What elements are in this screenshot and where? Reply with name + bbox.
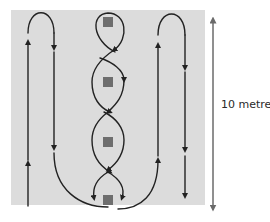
obstacle-4 <box>103 195 113 205</box>
obstacle-2 <box>103 77 113 87</box>
obstacle-3 <box>103 137 113 147</box>
obstacle-1 <box>103 17 113 27</box>
scale-label: 10 metres <box>221 98 270 111</box>
field-area <box>11 10 205 205</box>
movement-diagram <box>0 0 270 222</box>
